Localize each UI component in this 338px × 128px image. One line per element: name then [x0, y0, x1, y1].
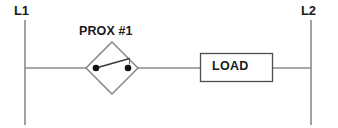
schematic-canvas: L1 L2 PROX #1 LOAD	[0, 0, 338, 128]
load-label: LOAD	[212, 60, 249, 73]
proximity-switch-label: PROX #1	[79, 25, 133, 38]
left-contact-dot-icon	[93, 65, 100, 72]
right-contact-dot-icon	[125, 65, 132, 72]
right-rail-label-l2: L2	[301, 4, 316, 17]
left-rail-label-l1: L1	[14, 4, 29, 17]
schematic-svg	[0, 0, 338, 128]
